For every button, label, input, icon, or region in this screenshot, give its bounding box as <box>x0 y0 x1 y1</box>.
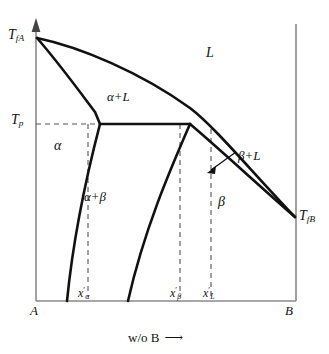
alpha-solidus-curve <box>37 38 100 124</box>
x-axis-caption: w/o B⟶ <box>128 330 183 346</box>
beta-solvus-curve <box>128 124 190 301</box>
temperature-axis-arrowhead <box>32 18 41 32</box>
x-axis-caption-text: w/o B <box>128 330 159 345</box>
label-component-A: A <box>30 303 38 319</box>
label-region-liquid: L <box>206 45 214 61</box>
label-peritectic-temperature: Tp <box>11 112 23 128</box>
label-component-B: B <box>285 303 293 319</box>
label-region-alpha-plus-beta: α+β <box>84 189 106 205</box>
liquidus-curve <box>37 38 295 217</box>
x-axis-caption-arrow-icon: ⟶ <box>164 330 183 346</box>
label-melting-point-A: TfA <box>8 27 24 43</box>
label-region-beta-plus-liquid: β+L <box>238 148 260 164</box>
label-x-liquid-prime: x′L <box>203 286 215 301</box>
label-region-alpha: α <box>54 138 61 154</box>
label-x-beta-prime: x′β <box>170 286 181 301</box>
beta-solidus-curve <box>190 124 295 217</box>
label-region-alpha-plus-liquid: α+L <box>107 89 130 105</box>
phase-diagram-canvas <box>0 0 329 354</box>
label-x-alpha-prime: x′α <box>78 286 89 301</box>
label-melting-point-B: TfB <box>299 208 315 224</box>
alpha-solvus-curve <box>67 124 100 301</box>
label-region-beta: β <box>218 194 225 210</box>
